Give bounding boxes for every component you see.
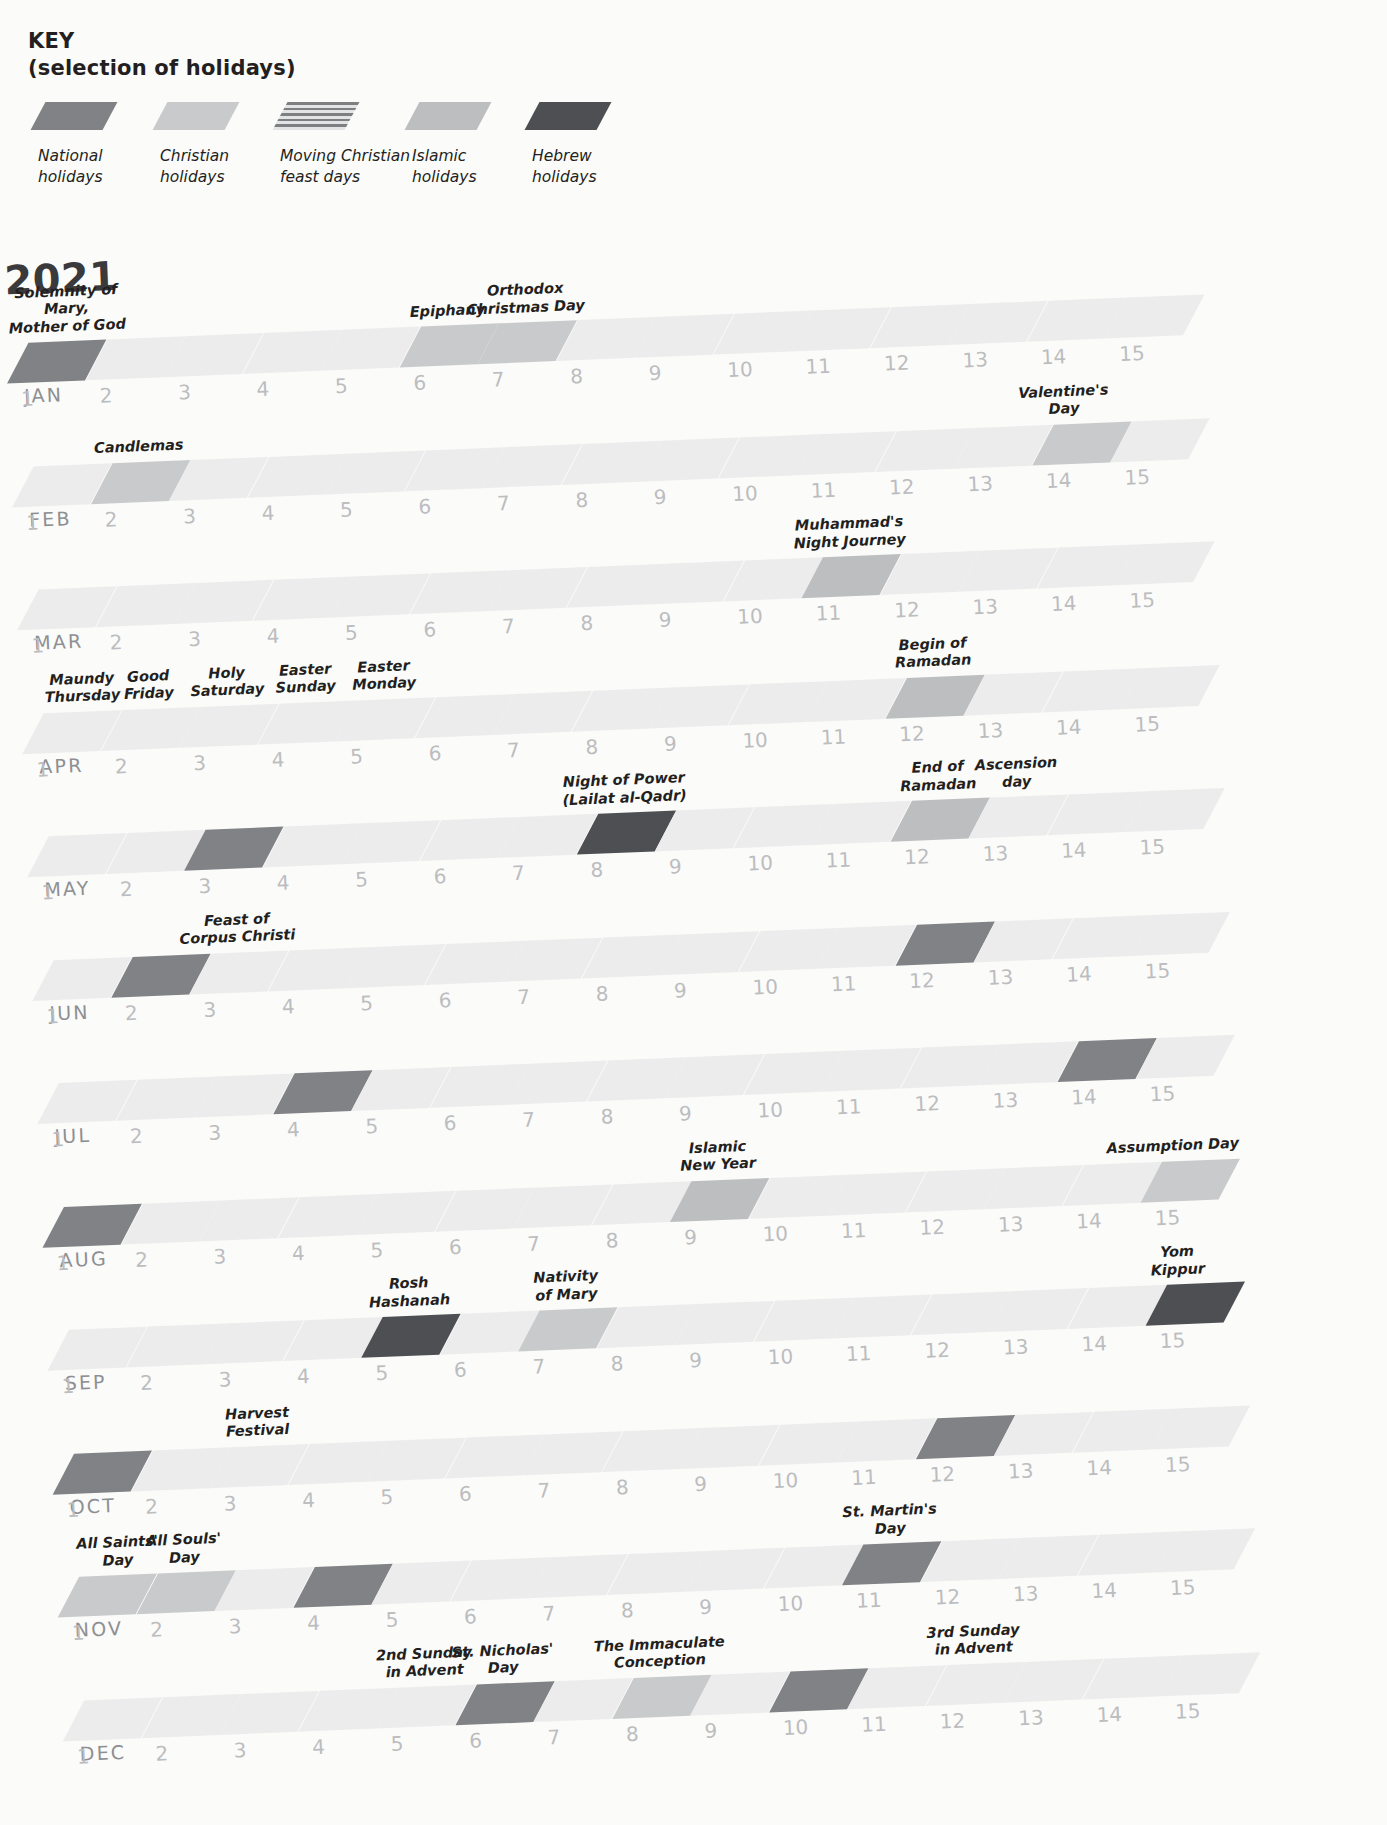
day-cell[interactable]: 1 — [27, 587, 107, 630]
day-cell[interactable]: 10 — [768, 1422, 848, 1465]
day-cell[interactable]: 8 — [591, 934, 671, 977]
day-cell[interactable]: 14 — [1062, 915, 1142, 958]
day-cell[interactable]: 8 — [596, 1058, 676, 1101]
day-cell[interactable]: 4 — [303, 1564, 383, 1607]
day-cell[interactable]: 3 — [230, 1691, 310, 1734]
day-cell[interactable]: 7 — [523, 1184, 603, 1227]
day-cell[interactable]: 9 — [670, 931, 750, 974]
day-cell[interactable]: 3 — [184, 580, 264, 623]
day-cell[interactable]: 7Orthodox Christmas Day — [488, 321, 568, 364]
day-cell[interactable]: 11St. Martin's Day — [852, 1542, 932, 1585]
day-cell[interactable]: 12 — [915, 1168, 995, 1211]
day-cell[interactable]: 14 — [1087, 1532, 1167, 1575]
day-cell[interactable]: 1 — [42, 957, 122, 1000]
day-cell[interactable]: 8Night of Power (Lailat al-Qadr) — [586, 811, 666, 854]
day-cell[interactable]: 2 — [126, 1077, 206, 1120]
day-cell[interactable]: 15 — [1135, 788, 1215, 831]
day-cell[interactable]: 3 — [179, 457, 259, 500]
day-cell[interactable]: 5 — [361, 1067, 441, 1110]
day-cell[interactable]: 14 — [1047, 545, 1127, 588]
day-cell[interactable]: 52nd Sunday in Advent — [386, 1684, 466, 1727]
day-cell[interactable]: 3 — [204, 1074, 284, 1117]
day-cell[interactable]: 7 — [543, 1678, 623, 1721]
day-cell[interactable]: 11 — [857, 1665, 937, 1708]
day-cell[interactable]: 5 — [331, 327, 411, 370]
day-cell[interactable]: 6 — [424, 694, 504, 737]
day-cell[interactable]: 15Assumption Day — [1150, 1159, 1230, 1202]
day-cell[interactable]: 3Feast of Corpus Christi — [199, 950, 279, 993]
day-cell[interactable]: 2 — [141, 1447, 221, 1490]
day-cell[interactable]: 9 — [690, 1425, 770, 1468]
day-cell[interactable]: 12 — [880, 305, 960, 348]
day-cell[interactable]: 14 — [1072, 1162, 1152, 1205]
day-cell[interactable]: 1 — [22, 463, 102, 506]
day-cell[interactable]: 6 — [445, 1188, 525, 1231]
day-cell[interactable]: 12 — [920, 1292, 1000, 1335]
day-cell[interactable]: 11 — [822, 801, 902, 844]
day-cell[interactable]: 7 — [503, 691, 583, 734]
day-cell[interactable]: 5Easter Monday — [346, 697, 426, 740]
day-cell[interactable]: 12 — [905, 922, 985, 965]
day-cell[interactable]: 11 — [801, 308, 881, 351]
day-cell[interactable]: 4 — [257, 454, 337, 497]
day-cell[interactable]: 123rd Sunday in Advent — [935, 1662, 1015, 1705]
day-cell[interactable]: 2 — [151, 1694, 231, 1737]
day-cell[interactable]: 9 — [644, 314, 724, 357]
day-cell[interactable]: 4 — [308, 1688, 388, 1731]
day-cell[interactable]: 6St. Nicholas' Day — [465, 1681, 545, 1724]
day-cell[interactable]: 14 — [1082, 1409, 1162, 1452]
day-cell[interactable]: 15 — [1171, 1652, 1251, 1695]
day-cell[interactable]: 11 — [847, 1418, 927, 1461]
day-cell[interactable]: 6 — [450, 1311, 530, 1354]
day-cell[interactable]: 11 — [816, 678, 896, 721]
day-cell[interactable]: 4 — [278, 947, 358, 990]
day-cell[interactable]: 13 — [983, 918, 1063, 961]
day-cell[interactable]: 9 — [665, 808, 745, 851]
day-cell[interactable]: 8 — [606, 1305, 686, 1348]
day-cell[interactable]: 7 — [513, 938, 593, 981]
day-cell[interactable]: 15Yom Kippur — [1156, 1282, 1236, 1325]
day-cell[interactable]: 9 — [700, 1672, 780, 1715]
day-cell[interactable]: 9 — [675, 1055, 755, 1098]
day-cell[interactable]: 10 — [779, 1668, 859, 1711]
day-cell[interactable]: 6 — [434, 941, 514, 984]
day-cell[interactable]: 13 — [968, 548, 1048, 591]
day-cell[interactable]: 3 — [224, 1567, 304, 1610]
day-cell[interactable]: 9 — [660, 684, 740, 727]
day-cell[interactable]: 2 — [131, 1200, 211, 1243]
day-cell[interactable]: 12Begin of Ramadan — [895, 675, 975, 718]
day-cell[interactable]: 11 — [837, 1172, 917, 1215]
day-cell[interactable]: 12 — [890, 551, 970, 594]
day-cell[interactable]: 13 — [958, 301, 1038, 344]
day-cell[interactable]: 14 — [1092, 1655, 1172, 1698]
day-cell[interactable]: 15 — [1140, 912, 1220, 955]
day-cell[interactable]: 8 — [617, 1551, 697, 1594]
day-cell[interactable]: 13Ascension day — [978, 795, 1058, 838]
day-cell[interactable]: 11 — [806, 431, 886, 474]
day-cell[interactable]: 1All Saints' Day — [68, 1574, 148, 1617]
day-cell[interactable]: 3Harvest Festival — [219, 1444, 299, 1487]
day-cell[interactable]: 12 — [930, 1538, 1010, 1581]
day-cell[interactable]: 10 — [763, 1298, 843, 1341]
day-cell[interactable]: 1Maundy Thursday — [32, 710, 112, 753]
day-cell[interactable]: 1Solemnity of Mary, Mother of God — [17, 340, 97, 383]
day-cell[interactable]: 6Epiphany — [409, 324, 489, 367]
day-cell[interactable]: 13 — [994, 1165, 1074, 1208]
day-cell[interactable]: 4Easter Sunday — [267, 700, 347, 743]
day-cell[interactable]: 5 — [381, 1561, 461, 1604]
day-cell[interactable]: 7 — [533, 1431, 613, 1474]
day-cell[interactable]: 9Islamic New Year — [680, 1178, 760, 1221]
day-cell[interactable]: 7 — [498, 567, 578, 610]
day-cell[interactable]: 6 — [439, 1064, 519, 1107]
day-cell[interactable]: 2 — [121, 954, 201, 997]
day-cell[interactable]: 5 — [366, 1191, 446, 1234]
day-cell[interactable]: 9 — [655, 561, 735, 604]
day-cell[interactable]: 5 — [336, 450, 416, 493]
day-cell[interactable]: 1 — [37, 834, 117, 877]
day-cell[interactable]: 7 — [508, 814, 588, 857]
day-cell[interactable]: 5 — [351, 821, 431, 864]
day-cell[interactable]: 15 — [1130, 665, 1210, 708]
day-cell[interactable]: 3 — [174, 334, 254, 377]
day-cell[interactable]: 4 — [293, 1317, 373, 1360]
day-cell[interactable]: 8 — [581, 688, 661, 731]
